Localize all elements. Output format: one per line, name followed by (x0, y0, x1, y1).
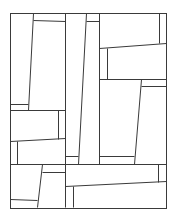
col-b-slant-line (79, 14, 87, 165)
right-top-slant-line (100, 44, 167, 49)
tile-lines (11, 14, 167, 208)
tiling-diagram (0, 0, 173, 216)
bottom-left-foot-line (11, 200, 38, 201)
bottom-right-slant-line (66, 182, 167, 187)
bottom-left-slant-line (38, 165, 43, 208)
left-lower-slant-line (11, 139, 66, 142)
right-mid-slant-line (135, 80, 142, 165)
top-left-cap-line (34, 21, 66, 22)
top-left-slant-line (29, 14, 34, 111)
